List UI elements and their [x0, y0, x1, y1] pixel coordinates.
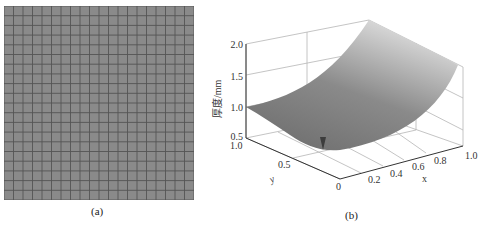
svg-text:1.5: 1.5 — [231, 71, 244, 82]
x-axis-label: x — [422, 173, 427, 184]
z-axis-label: 厚度/mm — [211, 79, 223, 118]
caption-b: (b) — [345, 209, 358, 221]
svg-text:0.4: 0.4 — [390, 168, 403, 179]
thickness-surface — [246, 20, 458, 150]
svg-text:1.0: 1.0 — [231, 102, 244, 113]
svg-text:1.0: 1.0 — [465, 150, 478, 161]
svg-text:1.0: 1.0 — [230, 140, 243, 151]
svg-text:0.6: 0.6 — [412, 161, 425, 172]
surface-plot-panel: 2.0 1.5 1.0 0.5 厚度/mm 1.0 0.5 0 y 0.2 0.… — [0, 0, 479, 228]
svg-text:0: 0 — [336, 181, 341, 192]
svg-text:0.2: 0.2 — [368, 174, 381, 185]
svg-text:0.8: 0.8 — [434, 155, 447, 166]
z-tick-labels: 2.0 1.5 1.0 0.5 — [231, 39, 244, 142]
surface-plot: 2.0 1.5 1.0 0.5 厚度/mm 1.0 0.5 0 y 0.2 0.… — [0, 0, 479, 228]
y-axis-label: y — [266, 173, 276, 186]
svg-text:0.5: 0.5 — [278, 159, 291, 170]
svg-text:2.0: 2.0 — [231, 39, 244, 50]
